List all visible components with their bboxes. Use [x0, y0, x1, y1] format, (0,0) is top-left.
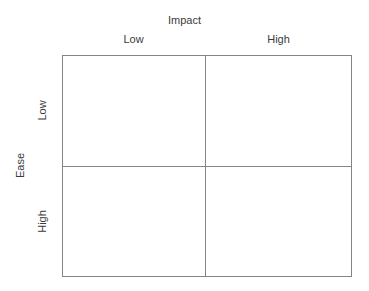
matrix-grid [62, 55, 352, 277]
column-header-low: Low [62, 33, 205, 46]
horizontal-divider-line [63, 166, 351, 167]
quadrant-high-impact-high-ease[interactable] [206, 167, 351, 276]
row-header-low: Low [36, 55, 49, 167]
quadrant-high-impact-low-ease[interactable] [206, 56, 351, 166]
quadrant-low-impact-high-ease[interactable] [63, 167, 205, 276]
x-axis-title: Impact [0, 14, 369, 27]
y-axis-title: Ease [14, 90, 27, 242]
quadrant-low-impact-low-ease[interactable] [63, 56, 205, 166]
column-header-high: High [205, 33, 352, 46]
impact-ease-matrix-figure: Impact Low High Ease Low High [0, 0, 369, 291]
row-header-high: High [36, 166, 49, 278]
